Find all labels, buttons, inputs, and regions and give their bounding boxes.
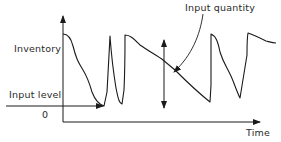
input-quantity-leader [174,14,203,72]
diagram-canvas [0,0,281,142]
input-quantity-label: Input quantity [185,2,255,13]
input-level-label: Input level [9,89,61,100]
zero-label: 0 [42,109,48,120]
inventory-curve [63,33,276,106]
x-axis-label: Time [246,127,270,138]
y-axis-label: Inventory [14,43,61,54]
